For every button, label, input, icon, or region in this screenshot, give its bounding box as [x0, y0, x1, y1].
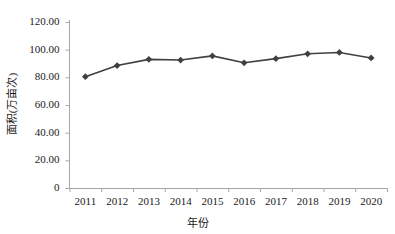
x-axis-tick-label: 2011 [70, 196, 102, 207]
y-axis-title: 面积(万亩次) [3, 67, 19, 141]
x-axis-tick-label: 2019 [324, 196, 356, 207]
x-axis-tick-label: 2016 [228, 196, 260, 207]
x-axis-tick-label: 2014 [165, 196, 197, 207]
data-point-marker [304, 50, 311, 57]
data-point-marker [82, 73, 89, 80]
data-point-marker [272, 55, 279, 62]
y-axis-tick-label: 100.00 [0, 44, 60, 55]
data-point-marker [145, 56, 152, 63]
y-axis-tick-label: 120.00 [0, 16, 60, 27]
data-point-marker [177, 57, 184, 64]
y-axis-tick-label: 20.00 [0, 154, 60, 165]
data-series-line [85, 52, 371, 76]
line-chart: 020.0040.0060.0080.00100.00120.00 201120… [0, 0, 395, 234]
x-axis-tick-label: 2017 [260, 196, 292, 207]
x-axis-tick-label: 2018 [292, 196, 324, 207]
data-point-marker [114, 62, 121, 69]
x-axis-title: 年份 [0, 214, 395, 230]
y-axis-tick-label: 0 [0, 182, 60, 193]
x-axis-tick-label: 2020 [355, 196, 387, 207]
axis-group [70, 20, 388, 189]
x-axis-tick-label: 2012 [101, 196, 133, 207]
y-axis-ticks [66, 23, 70, 189]
x-axis-tick-label: 2015 [197, 196, 229, 207]
data-point-marker [336, 49, 343, 56]
data-point-marker [241, 59, 248, 66]
data-point-marker [368, 55, 375, 62]
x-axis-tick-label: 2013 [133, 196, 165, 207]
data-point-marker [209, 52, 216, 59]
